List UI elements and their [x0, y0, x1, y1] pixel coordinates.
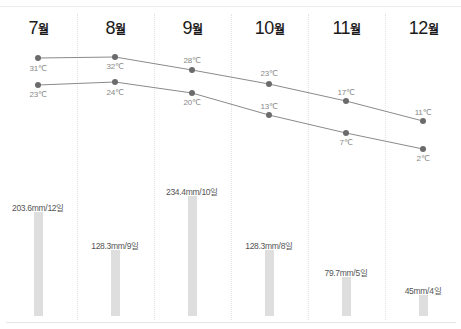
- precip-bar: [111, 250, 120, 316]
- high-temp-label: 17℃: [331, 88, 361, 97]
- low-temp-line: [38, 82, 423, 149]
- high-temp-label: 32℃: [100, 62, 130, 71]
- low-temp-label: 7℃: [331, 138, 361, 147]
- high-temp-label: 28℃: [177, 56, 207, 65]
- low-temp-label: 13℃: [254, 102, 284, 111]
- precip-bar: [188, 196, 197, 316]
- high-temp-label: 23℃: [254, 69, 284, 78]
- low-temp-points: [35, 79, 426, 152]
- high-temp-line: [38, 57, 423, 121]
- high-temp-label: 31℃: [23, 64, 53, 73]
- precip-bar: [419, 295, 428, 316]
- low-temp-label: 23℃: [23, 90, 53, 99]
- low-temp-label: 24℃: [100, 88, 130, 97]
- precip-bar: [265, 250, 274, 316]
- precip-bar: [342, 277, 351, 316]
- high-temp-points: [35, 54, 426, 124]
- bottom-rule: [6, 322, 456, 323]
- temperature-lines: [0, 0, 461, 329]
- precip-bar: [34, 212, 43, 316]
- high-temp-label: 11℃: [408, 108, 438, 117]
- low-temp-label: 2℃: [408, 154, 438, 163]
- low-temp-label: 20℃: [177, 98, 207, 107]
